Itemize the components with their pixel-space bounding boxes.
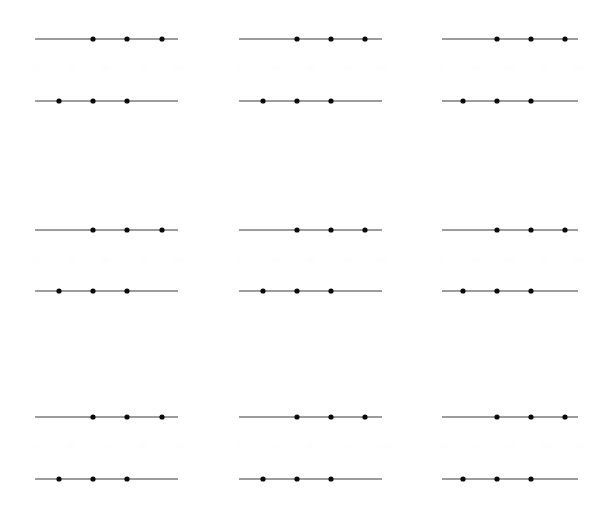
figure-root: 0255075100025507510002550751000255075100…	[0, 0, 613, 511]
data-point-marker	[56, 288, 61, 293]
data-point-marker	[56, 476, 61, 481]
ghost-tick-label: 0	[237, 64, 241, 73]
data-point-marker	[124, 288, 129, 293]
data-point-marker	[362, 227, 367, 232]
ghost-tick-label: 25	[472, 442, 480, 451]
data-point-marker	[294, 414, 299, 419]
data-point-marker	[90, 36, 95, 41]
ghost-tick-label: 25	[472, 255, 480, 264]
data-point-marker	[460, 288, 465, 293]
ghost-tick-label: 0	[33, 255, 37, 264]
ghost-tick-label: 100	[172, 64, 185, 73]
ghost-tick-label: 0	[440, 64, 444, 73]
ghost-tick-label: 25	[472, 64, 480, 73]
ghost-tick-label: 50	[102, 442, 110, 451]
ghost-tick-label: 25	[271, 64, 279, 73]
ghost-tick-label: 100	[376, 442, 389, 451]
data-point-marker	[328, 36, 333, 41]
ghost-tick-label: 100	[572, 442, 585, 451]
ghost-tick-label: 25	[67, 442, 75, 451]
data-point-marker	[294, 227, 299, 232]
data-point-marker	[562, 227, 567, 232]
ghost-tick-label: 0	[237, 255, 241, 264]
data-point-marker	[124, 476, 129, 481]
ghost-tick-label: 75	[540, 64, 548, 73]
data-point-marker	[328, 414, 333, 419]
ghost-tick-label: 100	[376, 255, 389, 264]
data-point-marker	[260, 98, 265, 103]
data-point-marker	[494, 288, 499, 293]
data-point-marker	[362, 36, 367, 41]
data-point-marker	[328, 98, 333, 103]
data-point-marker	[460, 98, 465, 103]
data-point-marker	[124, 36, 129, 41]
data-point-marker	[90, 98, 95, 103]
data-point-marker	[494, 227, 499, 232]
ghost-tick-label: 50	[506, 255, 514, 264]
data-point-marker	[562, 36, 567, 41]
ghost-tick-label: 75	[138, 442, 146, 451]
data-point-marker	[460, 476, 465, 481]
ghost-tick-label: 0	[440, 442, 444, 451]
ghost-tick-label: 0	[33, 64, 37, 73]
data-point-marker	[528, 98, 533, 103]
data-point-marker	[124, 414, 129, 419]
ghost-tick-label: 100	[172, 255, 185, 264]
ghost-tick-label: 100	[376, 64, 389, 73]
ghost-tick-label: 25	[67, 255, 75, 264]
ghost-tick-label: 25	[271, 255, 279, 264]
ghost-tick-label: 75	[138, 255, 146, 264]
data-point-marker	[528, 36, 533, 41]
ghost-tick-label: 0	[33, 442, 37, 451]
ghost-tick-label: 100	[172, 442, 185, 451]
ghost-tick-label: 25	[67, 64, 75, 73]
ghost-tick-label: 75	[342, 442, 350, 451]
data-point-marker	[528, 288, 533, 293]
data-point-marker	[90, 476, 95, 481]
data-point-marker	[90, 288, 95, 293]
data-point-marker	[124, 98, 129, 103]
data-point-marker	[528, 227, 533, 232]
ghost-tick-label: 75	[342, 64, 350, 73]
data-point-marker	[328, 288, 333, 293]
data-point-marker	[56, 98, 61, 103]
data-point-marker	[260, 476, 265, 481]
data-point-marker	[328, 227, 333, 232]
data-point-marker	[90, 414, 95, 419]
ghost-tick-label: 50	[102, 255, 110, 264]
ghost-tick-label: 0	[237, 442, 241, 451]
data-point-marker	[528, 414, 533, 419]
ghost-tick-label: 75	[342, 255, 350, 264]
ghost-tick-label: 50	[306, 442, 314, 451]
ghost-tick-label: 75	[138, 64, 146, 73]
data-point-marker	[294, 98, 299, 103]
ghost-tick-label: 0	[440, 255, 444, 264]
data-point-marker	[159, 36, 164, 41]
data-point-marker	[294, 476, 299, 481]
data-point-marker	[494, 36, 499, 41]
plot-canvas: 0255075100025507510002550751000255075100…	[0, 0, 613, 511]
data-point-marker	[528, 476, 533, 481]
data-point-marker	[294, 288, 299, 293]
data-point-marker	[124, 227, 129, 232]
data-point-marker	[294, 36, 299, 41]
data-point-marker	[494, 414, 499, 419]
ghost-tick-label: 50	[306, 255, 314, 264]
ghost-tick-label: 75	[540, 442, 548, 451]
data-point-marker	[494, 98, 499, 103]
ghost-tick-label: 50	[306, 64, 314, 73]
data-point-marker	[159, 414, 164, 419]
ghost-tick-label: 50	[506, 442, 514, 451]
data-point-marker	[562, 414, 567, 419]
data-point-marker	[260, 288, 265, 293]
data-point-marker	[494, 476, 499, 481]
ghost-tick-label: 50	[102, 64, 110, 73]
data-point-marker	[328, 476, 333, 481]
ghost-tick-label: 75	[540, 255, 548, 264]
ghost-tick-label: 50	[506, 64, 514, 73]
ghost-tick-label: 25	[271, 442, 279, 451]
data-point-marker	[362, 414, 367, 419]
data-point-marker	[159, 227, 164, 232]
ghost-tick-label: 100	[572, 64, 585, 73]
data-point-marker	[90, 227, 95, 232]
